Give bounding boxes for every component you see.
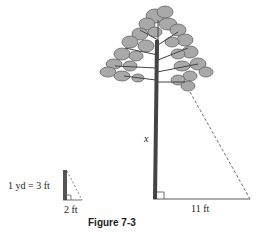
tree-right-angle-mark [157,192,164,199]
similar-triangles-diagram [0,0,275,234]
pole [63,170,67,200]
tree-sun-ray [190,92,250,199]
pole-sun-ray [67,171,82,200]
tree-trunk [153,40,159,199]
pole-right-angle-mark [67,195,71,200]
